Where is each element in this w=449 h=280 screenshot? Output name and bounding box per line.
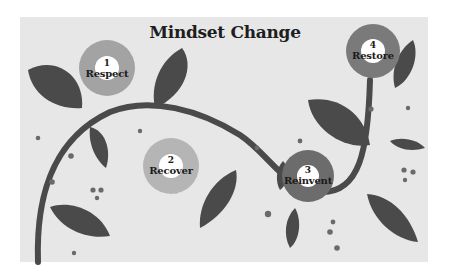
- leaf-icon: [390, 139, 425, 150]
- page-title: Mindset Change: [120, 22, 330, 42]
- step-label: Respect: [77, 68, 137, 80]
- step-node-respect: 1 Respect: [77, 58, 137, 80]
- leaf-icon: [308, 99, 370, 146]
- step-label: Recover: [141, 165, 201, 177]
- leaf-icon: [154, 48, 188, 108]
- step-number: 4: [343, 40, 403, 50]
- leaf-icon: [28, 65, 82, 108]
- step-node-recover: 2 Recover: [141, 155, 201, 177]
- step-node-reinvent: 3 Reinvent: [276, 165, 340, 187]
- step-node-restore: 4 Restore: [343, 40, 403, 62]
- leaf-icon: [286, 208, 299, 248]
- leaf-icon: [200, 170, 237, 228]
- step-label: Restore: [343, 50, 403, 62]
- step-number: 2: [141, 155, 201, 165]
- step-label: Reinvent: [276, 175, 340, 187]
- leaf-icon: [90, 127, 108, 168]
- leaf-icon: [50, 205, 110, 237]
- leaf-icon: [367, 194, 418, 242]
- step-number: 1: [77, 58, 137, 68]
- step-number: 3: [276, 165, 340, 175]
